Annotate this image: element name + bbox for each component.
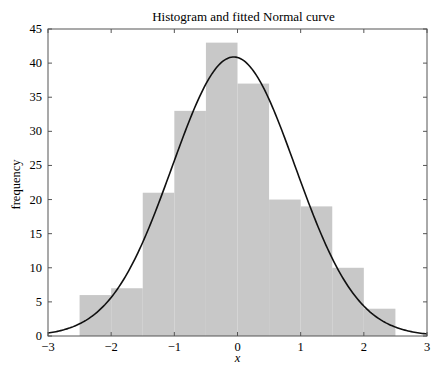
histogram-bar (80, 295, 112, 336)
x-tick-label: −2 (105, 340, 118, 354)
chart-title: Histogram and fitted Normal curve (152, 9, 335, 24)
x-tick-label: 2 (361, 340, 367, 354)
y-tick-label: 30 (30, 124, 43, 138)
y-tick-label: 0 (36, 329, 42, 343)
histogram-chart: −3−2−10123 051015202530354045 Histogram … (0, 0, 442, 378)
y-tick-label: 15 (30, 227, 43, 241)
histogram-bar (174, 111, 206, 336)
x-tick-label: 3 (424, 340, 430, 354)
x-axis-label: x (234, 351, 241, 365)
histogram-bars (80, 43, 396, 336)
y-tick-label: 5 (36, 295, 42, 309)
x-tick-label: −1 (168, 340, 181, 354)
histogram-bar (301, 206, 333, 336)
histogram-bar (269, 200, 301, 336)
y-tick-label: 25 (30, 158, 43, 172)
y-tick-label: 10 (30, 261, 43, 275)
histogram-bar (364, 309, 396, 336)
histogram-bar (111, 288, 143, 336)
y-tick-label: 20 (30, 193, 43, 207)
y-axis-label: frequency (9, 159, 23, 210)
histogram-bar (238, 84, 270, 336)
x-tick-label: 1 (298, 340, 304, 354)
histogram-bar (206, 43, 238, 336)
y-tick-label: 35 (30, 90, 43, 104)
y-tick-label: 40 (30, 56, 43, 70)
x-tick-label: −3 (41, 340, 54, 354)
y-tick-label: 45 (30, 22, 43, 36)
histogram-bar (143, 193, 175, 336)
